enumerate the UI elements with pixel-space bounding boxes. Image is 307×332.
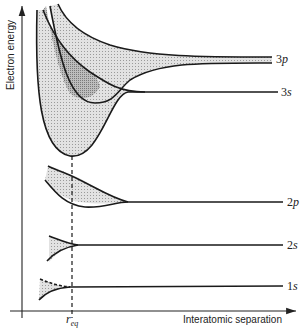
band-2s-upper-edge bbox=[49, 236, 283, 245]
level-label-2p: 2p bbox=[287, 195, 299, 209]
band-1s-lower-edge bbox=[39, 286, 283, 300]
level-label-3s: 3s bbox=[281, 85, 292, 99]
x-axis-label: Interatomic separation bbox=[183, 314, 282, 325]
level-label-2s: 2s bbox=[287, 238, 298, 252]
energy-band-diagram: Electron energy Interatomic separation r… bbox=[0, 0, 307, 332]
y-axis-label: Electron energy bbox=[5, 20, 16, 90]
level-label-3p: 3p bbox=[276, 52, 288, 66]
level-label-1s: 1s bbox=[287, 279, 298, 293]
r-eq-label: req bbox=[66, 312, 78, 328]
